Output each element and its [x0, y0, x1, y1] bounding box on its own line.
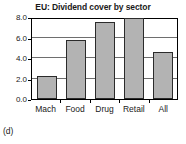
- y-tick-label: 6.0: [16, 35, 27, 43]
- x-tick-label-mach: Mach: [31, 104, 60, 114]
- y-axis: 0.02.04.06.08.0: [0, 18, 31, 100]
- y-tick-label: 4.0: [16, 55, 27, 63]
- plot-area: [31, 18, 178, 100]
- x-tick-mark: [149, 100, 150, 103]
- x-tick-label-food: Food: [61, 104, 90, 114]
- bar-drug: [95, 22, 115, 99]
- x-tick-label-all: All: [149, 104, 178, 114]
- bar-mach: [37, 76, 57, 99]
- x-tick-mark: [90, 100, 91, 103]
- figure-caption: (d): [3, 126, 13, 136]
- x-axis-labels: MachFoodDrugRetailAll: [31, 104, 178, 114]
- x-tick-label-drug: Drug: [90, 104, 119, 114]
- y-tick-label: 2.0: [16, 76, 27, 84]
- bar-all: [153, 52, 173, 99]
- x-tick-mark: [119, 100, 120, 103]
- bar-retail: [124, 18, 144, 99]
- x-tick-mark: [60, 100, 61, 103]
- chart-title: EU: Dividend cover by sector: [0, 2, 186, 12]
- bar-series: [32, 19, 177, 99]
- x-tick-label-retail: Retail: [119, 104, 148, 114]
- bar-food: [66, 40, 86, 99]
- chart-figure: EU: Dividend cover by sector 0.02.04.06.…: [0, 0, 186, 144]
- y-tick-label: 8.0: [16, 14, 27, 22]
- y-tick-label: 0.0: [16, 96, 27, 104]
